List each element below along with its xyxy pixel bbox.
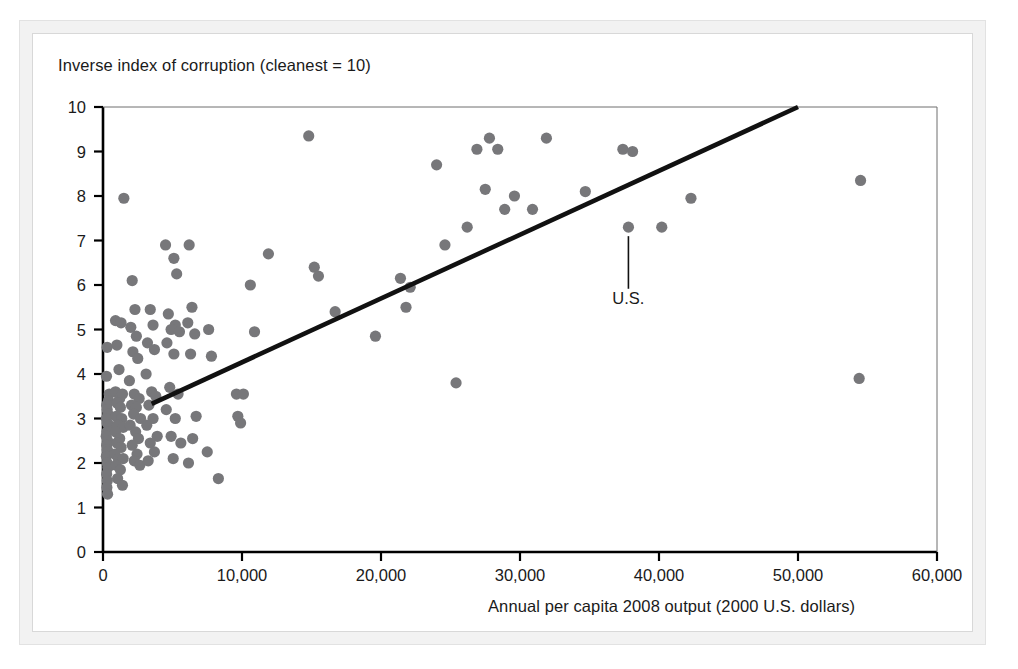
data-point — [145, 304, 156, 315]
x-tick-label: 60,000 — [912, 566, 962, 585]
data-point — [238, 388, 249, 399]
data-point — [439, 239, 450, 250]
data-point — [685, 193, 696, 204]
data-point — [132, 353, 143, 364]
scatter-chart: Inverse index of corruption (cleanest = … — [0, 0, 1018, 669]
data-point — [854, 373, 865, 384]
data-point — [168, 453, 179, 464]
data-point — [245, 279, 256, 290]
data-point — [580, 186, 591, 197]
x-tick-label: 0 — [98, 566, 107, 585]
y-tick-label: 10 — [56, 98, 86, 117]
data-point — [147, 319, 158, 330]
y-tick-label: 6 — [56, 276, 86, 295]
data-point — [170, 413, 181, 424]
data-point — [115, 317, 126, 328]
data-point — [249, 326, 260, 337]
data-point — [431, 159, 442, 170]
data-point — [161, 337, 172, 348]
data-point — [141, 420, 152, 431]
data-point — [484, 133, 495, 144]
data-point — [462, 222, 473, 233]
us-annotation-label: U.S. — [612, 289, 644, 308]
x-axis-title: Annual per capita 2008 output (2000 U.S.… — [488, 597, 855, 616]
data-point — [263, 248, 274, 259]
y-tick-label: 0 — [56, 543, 86, 562]
data-point — [623, 222, 634, 233]
y-tick-label: 8 — [56, 187, 86, 206]
data-point — [189, 328, 200, 339]
data-points-group — [101, 130, 867, 499]
data-point — [102, 342, 113, 353]
data-point — [102, 489, 113, 500]
data-point — [492, 144, 503, 155]
data-point — [471, 144, 482, 155]
data-point — [143, 455, 154, 466]
y-tick-label: 9 — [56, 142, 86, 161]
data-point — [187, 433, 198, 444]
x-tick-label: 30,000 — [495, 566, 545, 585]
data-point — [113, 364, 124, 375]
data-point — [235, 417, 246, 428]
data-point — [163, 308, 174, 319]
data-point — [160, 239, 171, 250]
data-point — [855, 175, 866, 186]
data-point — [101, 371, 112, 382]
data-point — [656, 222, 667, 233]
data-point — [450, 377, 461, 388]
data-point — [183, 457, 194, 468]
x-tick-label: 40,000 — [634, 566, 684, 585]
data-point — [168, 253, 179, 264]
data-point — [527, 204, 538, 215]
data-point — [129, 304, 140, 315]
y-tick-label: 5 — [56, 320, 86, 339]
data-point — [118, 193, 129, 204]
x-tick-label: 50,000 — [773, 566, 823, 585]
figure-root: Inverse index of corruption (cleanest = … — [0, 0, 1018, 669]
data-point — [149, 344, 160, 355]
data-point — [161, 404, 172, 415]
data-point — [370, 331, 381, 342]
data-point — [127, 275, 138, 286]
data-point — [395, 273, 406, 284]
data-point — [509, 190, 520, 201]
data-point — [185, 348, 196, 359]
data-point — [174, 326, 185, 337]
data-point — [303, 130, 314, 141]
data-point — [111, 339, 122, 350]
data-point — [140, 368, 151, 379]
y-tick-label: 2 — [56, 454, 86, 473]
y-tick-label: 1 — [56, 498, 86, 517]
data-point — [313, 271, 324, 282]
data-point — [182, 317, 193, 328]
data-point — [124, 375, 135, 386]
data-point — [191, 411, 202, 422]
y-tick-label: 3 — [56, 409, 86, 428]
data-point — [499, 204, 510, 215]
data-point — [117, 480, 128, 491]
y-tick-label: 4 — [56, 365, 86, 384]
data-point — [541, 133, 552, 144]
data-point — [184, 239, 195, 250]
x-tick-label: 20,000 — [356, 566, 406, 585]
data-point — [617, 144, 628, 155]
x-tick-label: 10,000 — [217, 566, 267, 585]
data-point — [480, 184, 491, 195]
data-point — [400, 302, 411, 313]
data-point — [168, 348, 179, 359]
data-point — [166, 431, 177, 442]
data-point — [627, 146, 638, 157]
data-point — [131, 331, 142, 342]
data-point — [206, 351, 217, 362]
data-point — [186, 302, 197, 313]
data-point — [203, 324, 214, 335]
data-point — [213, 473, 224, 484]
data-point — [175, 437, 186, 448]
data-point — [171, 268, 182, 279]
y-tick-label: 7 — [56, 231, 86, 250]
data-point — [202, 446, 213, 457]
chart-axes — [94, 107, 937, 561]
